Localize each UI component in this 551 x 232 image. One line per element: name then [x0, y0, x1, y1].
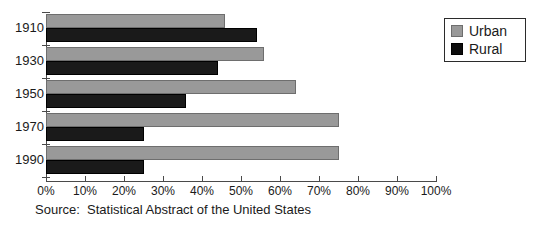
x-axis-label-40pct: 40%: [180, 185, 224, 197]
bar-rural-1910: [46, 28, 257, 42]
bar-rural-1950: [46, 94, 186, 108]
x-axis-label-50pct: 50%: [219, 185, 263, 197]
x-axis-label-80pct: 80%: [336, 185, 380, 197]
bar-group: [46, 113, 436, 142]
legend-swatch-rural-icon: [451, 43, 463, 55]
bar-urban-1990: [46, 146, 339, 160]
plot-area: [46, 14, 436, 179]
legend-item-urban: Urban: [451, 22, 525, 40]
x-axis-label-10pct: 10%: [63, 185, 107, 197]
x-axis-tick: [85, 176, 86, 182]
x-axis-label-60pct: 60%: [258, 185, 302, 197]
bar-chart: 19101930195019701990 0%10%20%30%40%50%60…: [0, 0, 551, 232]
y-axis-label-1970: 1970: [2, 120, 44, 133]
source-note: Source: Statistical Abstract of the Unit…: [35, 203, 311, 217]
legend-label-rural: Rural: [469, 42, 502, 56]
x-axis-tick: [358, 176, 359, 182]
x-axis-label-70pct: 70%: [297, 185, 341, 197]
x-axis-label-100pct: 100%: [414, 185, 458, 197]
x-axis-tick: [124, 176, 125, 182]
y-axis-label-wrap: 1990: [0, 153, 44, 166]
y-axis-label-1930: 1930: [2, 54, 44, 67]
x-axis-tick: [202, 176, 203, 182]
legend-swatch-urban-icon: [451, 25, 463, 37]
x-axis-tick: [319, 176, 320, 182]
x-axis-tick: [280, 176, 281, 182]
y-axis-label-1950: 1950: [2, 87, 44, 100]
x-axis-tick: [397, 176, 398, 182]
y-axis-label-wrap: 1950: [0, 87, 44, 100]
bar-urban-1910: [46, 14, 225, 28]
bar-rural-1970: [46, 127, 144, 141]
y-axis-label-wrap: 1910: [0, 21, 44, 34]
x-axis-label-0pct: 0%: [24, 185, 68, 197]
x-axis-tick: [163, 176, 164, 182]
y-axis-label-wrap: 1970: [0, 120, 44, 133]
bar-group: [46, 47, 436, 76]
bar-rural-1930: [46, 61, 218, 75]
x-axis-label-20pct: 20%: [102, 185, 146, 197]
bar-urban-1950: [46, 80, 296, 94]
bar-group: [46, 14, 436, 43]
x-axis-label-30pct: 30%: [141, 185, 185, 197]
y-axis-label-1910: 1910: [2, 21, 44, 34]
legend-label-urban: Urban: [469, 24, 507, 38]
bar-group: [46, 80, 436, 109]
bar-rural-1990: [46, 160, 144, 174]
x-axis-tick: [46, 176, 47, 182]
bar-urban-1930: [46, 47, 264, 61]
x-axis-tick: [436, 176, 437, 182]
bar-group: [46, 146, 436, 175]
legend: Urban Rural: [444, 18, 526, 62]
y-axis-label-wrap: 1930: [0, 54, 44, 67]
y-axis-tick: [42, 12, 50, 13]
bar-urban-1970: [46, 113, 339, 127]
legend-item-rural: Rural: [451, 40, 525, 58]
y-axis-label-1990: 1990: [2, 153, 44, 166]
x-axis-tick: [241, 176, 242, 182]
x-axis-label-90pct: 90%: [375, 185, 419, 197]
